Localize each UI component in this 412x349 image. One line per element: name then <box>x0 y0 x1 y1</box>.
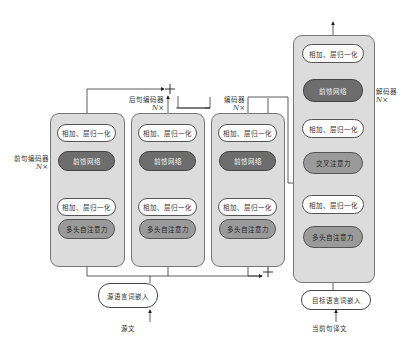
encoder-label: 编码器 N× <box>210 96 245 112</box>
next-encoder-title: 后句编码器 <box>129 96 164 104</box>
encoder-repeat: N× <box>210 104 245 112</box>
target-input-label: 当前句译文 <box>312 323 347 333</box>
encoder-self-attention: 多头自注意力 <box>219 219 276 239</box>
encoder-add-norm-top: 相加、层归一化 <box>218 124 277 142</box>
decoder-add-norm-bottom: 相加、层归一化 <box>302 195 364 214</box>
decoder-ffn: 前馈网络 <box>303 79 363 102</box>
decoder-self-attention: 多头自注意力 <box>303 226 363 248</box>
decoder-title: 解码器 <box>376 88 397 96</box>
decoder-add-norm-top: 相加、层归一化 <box>302 44 364 63</box>
prev-encoder-repeat: N× <box>14 163 48 171</box>
decoder-add-norm-middle: 相加、层归一化 <box>302 119 364 138</box>
prev-encoder-add-norm-top: 相加、层归一化 <box>57 124 116 142</box>
prev-encoder-self-attention: 多头自注意力 <box>58 219 115 239</box>
next-encoder-add-norm-bottom: 相加、层归一化 <box>138 198 197 216</box>
figure-caption <box>20 336 400 349</box>
encoder-add-norm-bottom: 相加、层归一化 <box>218 198 277 216</box>
prev-encoder-ffn: 前馈网络 <box>58 151 115 171</box>
prev-encoder-title: 前句编码器 <box>14 155 49 163</box>
next-encoder-self-attention: 多头自注意力 <box>139 219 196 239</box>
prev-encoder-add-norm-bottom: 相加、层归一化 <box>57 198 116 216</box>
decoder-repeat: N× <box>376 96 398 104</box>
next-encoder-repeat: N× <box>126 104 164 112</box>
decoder-cross-attention: 交叉注意力 <box>303 152 363 174</box>
prev-encoder-label: 前句编码器 N× <box>14 155 48 171</box>
source-embedding: 源语言词嵌入 <box>98 283 158 308</box>
next-encoder-label: 后句编码器 N× <box>126 96 164 112</box>
encoder-title: 编码器 <box>224 96 245 104</box>
next-encoder-ffn: 前馈网络 <box>139 151 196 171</box>
target-embedding: 目标语言词嵌入 <box>301 290 371 310</box>
decoder-label: 解码器 N× <box>376 88 398 104</box>
encoder-ffn: 前馈网络 <box>219 151 276 171</box>
next-encoder-add-norm-top: 相加、层归一化 <box>138 124 197 142</box>
source-input-label: 源文 <box>121 323 135 333</box>
